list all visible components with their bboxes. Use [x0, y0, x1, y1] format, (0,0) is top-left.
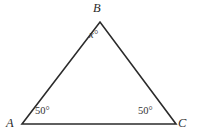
angle-label-c: 50° [138, 106, 153, 117]
vertex-label-b: B [93, 2, 101, 15]
triangle-drawing [0, 0, 198, 139]
angle-label-a: 50° [35, 106, 50, 117]
vertex-label-c: C [178, 117, 186, 130]
vertex-label-a: A [6, 117, 14, 130]
angle-label-b: x° [89, 30, 98, 41]
geometry-figure: A B C 50° x° 50° [0, 0, 198, 139]
